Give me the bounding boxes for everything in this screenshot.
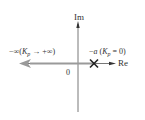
origin-label: 0	[66, 69, 70, 77]
imaginary-axis-arrow-icon	[76, 21, 79, 28]
root-locus-diagram: Im Re 0 −∞(Kp → +∞) −a (Kp = 0)	[0, 0, 145, 120]
imaginary-axis	[76, 21, 79, 112]
real-axis-arrow-icon	[109, 62, 116, 65]
locus-end-label: −∞(Kp → +∞)	[9, 48, 55, 57]
imaginary-axis-label: Im	[74, 13, 84, 22]
locus-end-prefix: −∞(	[9, 47, 22, 56]
pole-label-rest: = 0)	[111, 47, 126, 56]
pole-label: −a (Kp = 0)	[89, 48, 126, 57]
locus-branch-arrow	[19, 59, 94, 68]
real-axis-label: Re	[118, 59, 128, 68]
locus-end-rest: → +∞)	[30, 47, 55, 56]
